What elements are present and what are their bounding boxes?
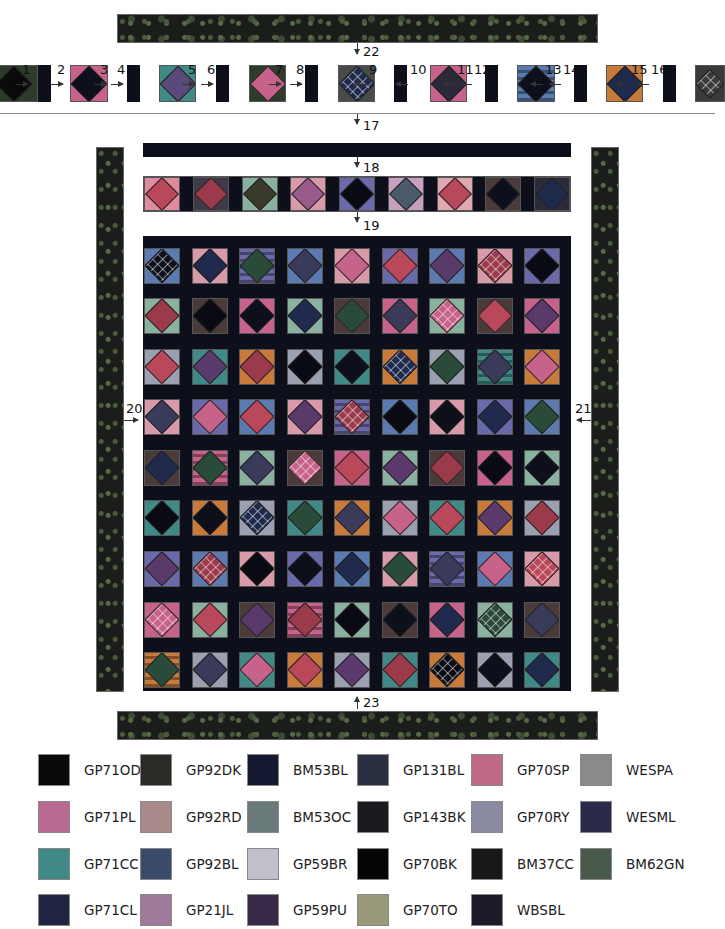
pieced-row-block <box>388 177 424 211</box>
label-23: 23 <box>363 696 380 709</box>
fabric-code: WESML <box>626 809 676 825</box>
arrow-left-icon <box>443 84 455 85</box>
quilt-block <box>144 652 180 688</box>
quilt-block <box>192 652 228 688</box>
legend-item-bm62gn: BM62GN <box>580 844 685 884</box>
quilt-block <box>192 450 228 486</box>
fabric-swatch <box>140 894 172 926</box>
legend-item-wbsbl: WBSBL <box>471 890 565 929</box>
quilt-block <box>144 450 180 486</box>
left-border-strip <box>96 147 124 692</box>
quilt-block <box>287 248 323 284</box>
diamond-patch <box>429 652 465 688</box>
legend-item-bm37cc: BM37CC <box>471 844 574 884</box>
diamond-patch <box>192 298 228 334</box>
pieced-block-row <box>143 176 571 212</box>
fabric-code: GP59PU <box>293 902 347 918</box>
diamond-patch <box>524 500 560 536</box>
label-17: 17 <box>363 119 380 132</box>
piece-label-11: 11 <box>457 63 474 76</box>
diamond-patch <box>524 399 560 435</box>
diamond-patch <box>524 652 560 688</box>
sashing-piece <box>127 65 140 102</box>
quilt-block <box>192 248 228 284</box>
diamond-patch <box>239 602 275 638</box>
fabric-swatch <box>471 848 503 880</box>
diamond-patch <box>477 349 513 385</box>
fabric-code: GP92BL <box>186 856 239 872</box>
diamond-patch <box>438 177 472 211</box>
quilt-block <box>429 399 465 435</box>
diamond-patch <box>239 248 275 284</box>
legend-item-gp71cc: GP71CC <box>38 844 139 884</box>
fabric-code: GP21JL <box>186 902 233 918</box>
diamond-patch <box>524 298 560 334</box>
diamond-patch <box>144 399 180 435</box>
diamond-patch <box>486 177 520 211</box>
bottom-border-strip <box>117 711 598 740</box>
quilt-block <box>524 652 560 688</box>
diamond-patch <box>524 450 560 486</box>
legend-item-bm53oc: BM53OC <box>247 797 351 837</box>
diamond-patch <box>144 500 180 536</box>
fabric-code: BM62GN <box>626 856 685 872</box>
diamond-patch <box>429 349 465 385</box>
quilt-block <box>382 551 418 587</box>
legend-item-gp71pl: GP71PL <box>38 797 135 837</box>
quilt-block <box>287 298 323 334</box>
legend-item-gp143bk: GP143BK <box>357 797 465 837</box>
quilt-block <box>239 399 275 435</box>
quilt-block <box>239 349 275 385</box>
fabric-swatch <box>38 754 70 786</box>
diamond-patch <box>477 602 513 638</box>
quilt-block <box>334 298 370 334</box>
quilt-block <box>477 298 513 334</box>
quilt-block <box>477 399 513 435</box>
diamond-patch <box>524 551 560 587</box>
fabric-code: WBSBL <box>517 902 565 918</box>
fabric-code: GP143BK <box>403 809 465 825</box>
fabric-swatch <box>247 848 279 880</box>
quilt-block <box>144 298 180 334</box>
top-border-strip <box>117 14 598 43</box>
fabric-swatch <box>38 894 70 926</box>
diamond-patch <box>429 500 465 536</box>
label-19: 19 <box>363 219 380 232</box>
fabric-swatch <box>140 801 172 833</box>
pieced-row-block <box>144 177 180 211</box>
legend-item-gp21jl: GP21JL <box>140 890 233 929</box>
arrow-right-icon <box>51 84 63 85</box>
arrow-left-icon <box>637 84 649 85</box>
diamond-patch <box>382 652 418 688</box>
arrow-down-17 <box>357 114 358 124</box>
diamond-patch <box>334 450 370 486</box>
diamond-patch <box>524 602 560 638</box>
diamond-patch <box>477 652 513 688</box>
quilt-block <box>287 602 323 638</box>
fabric-swatch <box>580 754 612 786</box>
arrow-left-icon <box>549 84 561 85</box>
diamond-patch <box>429 450 465 486</box>
fabric-code: GP131BL <box>403 762 464 778</box>
legend-item-gp59br: GP59BR <box>247 844 347 884</box>
quilt-block <box>334 349 370 385</box>
fabric-code: GP71PL <box>84 809 135 825</box>
piece-label-13: 13 <box>545 63 562 76</box>
legend-item-gp71cl: GP71CL <box>38 890 137 929</box>
arrow-left-21 <box>577 420 591 421</box>
diamond-patch <box>145 177 179 211</box>
legend-item-gp71od: GP71OD <box>38 750 141 790</box>
fabric-swatch <box>580 801 612 833</box>
quilt-block <box>524 602 560 638</box>
piece-label-6: 6 <box>207 63 215 76</box>
diamond-patch <box>239 399 275 435</box>
quilt-block <box>287 652 323 688</box>
legend-item-gp70sp: GP70SP <box>471 750 570 790</box>
quilt-block <box>382 602 418 638</box>
diamond-patch <box>192 349 228 385</box>
sashing-piece <box>38 65 51 102</box>
quilt-block <box>334 399 370 435</box>
fabric-code: GP70RY <box>517 809 570 825</box>
diamond-patch <box>382 500 418 536</box>
quilt-block <box>477 450 513 486</box>
